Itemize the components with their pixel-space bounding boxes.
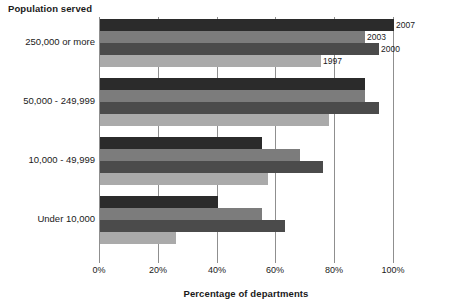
tick-mark <box>275 257 276 263</box>
category-label: 250,000 or more <box>1 36 95 47</box>
category-label: Under 10,000 <box>1 213 95 224</box>
tick-mark <box>393 257 394 263</box>
x-axis-ticks: 0%20%40%60%80%100% <box>99 0 393 308</box>
x-tick-label: 60% <box>255 265 295 275</box>
x-axis-title: Percentage of departments <box>99 288 393 299</box>
bar-chart: Population served 250,000 or more50,000 … <box>0 0 452 308</box>
tick-mark <box>158 257 159 263</box>
x-tick-label: 40% <box>197 265 237 275</box>
tick-mark <box>217 257 218 263</box>
tick-mark <box>99 257 100 263</box>
category-label: 10,000 - 49,999 <box>1 154 95 165</box>
category-label: 50,000 - 249,999 <box>1 95 95 106</box>
series-label-2007: 2007 <box>396 19 415 31</box>
x-tick-label: 0% <box>79 265 119 275</box>
tick-mark <box>334 257 335 263</box>
y-axis-title: Population served <box>8 3 92 14</box>
x-tick-label: 20% <box>138 265 178 275</box>
x-tick-label: 100% <box>373 265 413 275</box>
category-axis-labels: 250,000 or more50,000 - 249,99910,000 - … <box>0 17 95 257</box>
x-tick-label: 80% <box>314 265 354 275</box>
